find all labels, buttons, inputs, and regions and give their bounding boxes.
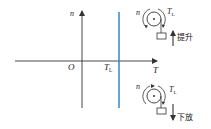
bottom-torque-label: TL (169, 85, 177, 95)
top-speed-label: n (136, 8, 140, 17)
load-weight-icon (157, 108, 166, 114)
top-torque-label: TL (167, 7, 175, 17)
t-axis-label: T (153, 65, 159, 75)
hoist-label: 提升 (177, 32, 193, 42)
n-axis-label: n (70, 9, 74, 18)
load-torque-label: TL (104, 62, 113, 73)
load-weight-icon (157, 33, 166, 39)
lower-label: 下放 (177, 112, 193, 122)
diagram-canvas: T n O TL n TL 提升 (0, 0, 211, 129)
bottom-pulley: n TL 下放 (136, 82, 193, 122)
top-pulley: n TL 提升 (136, 7, 193, 46)
diagram-svg: T n O TL n TL 提升 (0, 0, 211, 129)
origin-label: O (68, 62, 75, 72)
bottom-speed-label: n (136, 82, 140, 91)
